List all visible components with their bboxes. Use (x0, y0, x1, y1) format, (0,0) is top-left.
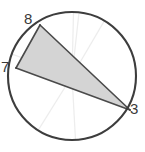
geometry-figure: 8 7 3 (0, 0, 145, 152)
vertex-label-8: 8 (24, 11, 32, 26)
vertex-label-3: 3 (130, 101, 138, 116)
vertex-marker-7 (15, 67, 17, 69)
vertex-label-7: 7 (1, 59, 9, 74)
circle-diagram-canvas (0, 0, 145, 152)
vertex-marker-8 (39, 24, 41, 26)
